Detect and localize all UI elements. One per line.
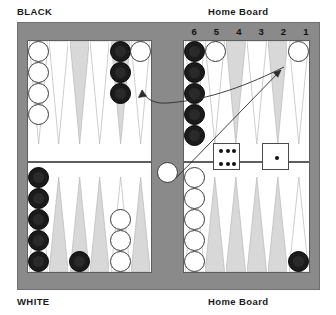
- checker-black[interactable]: [28, 251, 49, 272]
- center-bar[interactable]: [152, 40, 183, 273]
- checker-white[interactable]: [110, 251, 131, 272]
- die-pip: [232, 162, 236, 166]
- checker-white[interactable]: [28, 83, 49, 104]
- point-number-strip: 6 5 4 3 2 1: [183, 24, 317, 39]
- point-number-6: 6: [183, 24, 205, 39]
- checker-black[interactable]: [28, 167, 49, 188]
- die-1[interactable]: [262, 143, 289, 170]
- checker-black[interactable]: [110, 83, 131, 104]
- die-6[interactable]: [213, 143, 240, 170]
- checker-black[interactable]: [28, 188, 49, 209]
- checker-white[interactable]: [28, 62, 49, 83]
- point-number-5: 5: [205, 24, 227, 39]
- checker-black[interactable]: [110, 62, 131, 83]
- checker-black[interactable]: [69, 251, 90, 272]
- point-number-2: 2: [272, 24, 294, 39]
- die-pip: [226, 149, 230, 153]
- checker-white[interactable]: [28, 104, 49, 125]
- point-number-3: 3: [250, 24, 272, 39]
- checker-white[interactable]: [205, 41, 226, 62]
- checker-black[interactable]: [184, 125, 205, 146]
- checker-black[interactable]: [288, 251, 309, 272]
- die-pip: [219, 162, 223, 166]
- label-home-board-top: Home Board: [208, 6, 268, 17]
- checker-black[interactable]: [184, 62, 205, 83]
- checker-white[interactable]: [184, 167, 205, 188]
- checker-white[interactable]: [288, 41, 309, 62]
- die-pip: [275, 156, 279, 160]
- checker-black[interactable]: [110, 41, 131, 62]
- checker-white[interactable]: [184, 188, 205, 209]
- die-pip: [219, 149, 223, 153]
- checker-white[interactable]: [184, 230, 205, 251]
- die-pip: [232, 149, 236, 153]
- checker-white[interactable]: [184, 251, 205, 272]
- die-pip: [226, 162, 230, 166]
- checker-black[interactable]: [184, 104, 205, 125]
- checker-black[interactable]: [184, 41, 205, 62]
- checker-white[interactable]: [110, 230, 131, 251]
- checker-white[interactable]: [184, 209, 205, 230]
- label-black: BLACK: [17, 6, 52, 17]
- label-home-board-bottom: Home Board: [208, 296, 268, 307]
- checker-black[interactable]: [28, 230, 49, 251]
- backgammon-board-figure: BLACK WHITE Home Board Home Board 6 5 4 …: [0, 0, 336, 315]
- point-number-1: 1: [295, 24, 317, 39]
- checker-black[interactable]: [28, 209, 49, 230]
- checker-black[interactable]: [184, 83, 205, 104]
- label-white: WHITE: [17, 296, 50, 307]
- checker-white[interactable]: [110, 209, 131, 230]
- bar-checker-white[interactable]: [157, 162, 178, 183]
- point-number-4: 4: [228, 24, 250, 39]
- checker-white[interactable]: [28, 41, 49, 62]
